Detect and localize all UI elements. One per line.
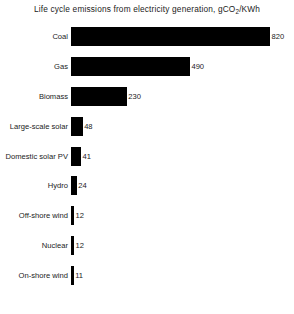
bar-category-label: Off-shore wind: [0, 211, 71, 220]
bar-row: Hydro24: [0, 173, 294, 199]
bar: [71, 147, 81, 166]
chart-title-prefix: Life cycle emissions from electricity ge…: [34, 4, 236, 14]
chart-title-subscript: 2: [235, 8, 239, 15]
bar-row: Domestic solar PV41: [0, 143, 294, 169]
bar: [71, 87, 127, 106]
bar-category-label: Nuclear: [0, 241, 71, 250]
bar-category-label: Domestic solar PV: [0, 152, 71, 161]
bar-track: 41: [71, 143, 294, 169]
bar-row: Nuclear12: [0, 232, 294, 258]
bar-row: Large-scale solar48: [0, 113, 294, 139]
bar-value-label: 11: [74, 271, 83, 280]
bar-category-label: Gas: [0, 62, 71, 71]
chart-figure: Life cycle emissions from electricity ge…: [0, 0, 294, 314]
bar-category-label: Biomass: [0, 92, 71, 101]
bar-track: 490: [71, 54, 294, 80]
bar-value-label: 490: [190, 62, 204, 71]
bar: [71, 27, 270, 46]
bar-value-label: 820: [270, 32, 284, 41]
chart-title-suffix: /KWh: [239, 4, 260, 14]
bar-value-label: 24: [77, 181, 87, 190]
bar-track: 12: [71, 203, 294, 229]
bar-row: On-shore wind11: [0, 262, 294, 288]
bar-value-label: 12: [74, 241, 84, 250]
bar-category-label: Hydro: [0, 181, 71, 190]
bar: [71, 117, 83, 136]
bar-value-label: 12: [74, 211, 84, 220]
bar-category-label: Large-scale solar: [0, 122, 71, 131]
bar-chart-plot-area: Coal820Gas490Biomass230Large-scale solar…: [0, 22, 294, 290]
bar-value-label: 41: [81, 152, 91, 161]
bar-track: 12: [71, 232, 294, 258]
bar-category-label: On-shore wind: [0, 271, 71, 280]
bar-track: 820: [71, 24, 294, 50]
chart-title: Life cycle emissions from electricity ge…: [0, 4, 294, 15]
bar-value-label: 230: [127, 92, 141, 101]
bar-row: Coal820: [0, 24, 294, 50]
bar: [71, 57, 190, 76]
bar-track: 230: [71, 83, 294, 109]
bar-row: Gas490: [0, 54, 294, 80]
bar-value-label: 48: [83, 122, 93, 131]
bar-row: Biomass230: [0, 83, 294, 109]
bar-category-label: Coal: [0, 32, 71, 41]
bar-track: 24: [71, 173, 294, 199]
bar-row: Off-shore wind12: [0, 203, 294, 229]
bar-track: 48: [71, 113, 294, 139]
bar-track: 11: [71, 262, 294, 288]
